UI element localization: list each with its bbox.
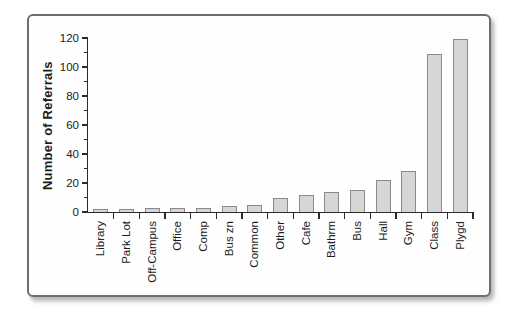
x-axis-tick <box>370 212 372 219</box>
y-axis-minor-tick <box>84 81 88 83</box>
x-axis-tick <box>293 212 295 219</box>
y-axis-major-tick <box>82 153 88 155</box>
category-slot: Plygd <box>447 38 473 212</box>
x-axis-category-label: Gym <box>402 221 415 245</box>
y-axis-minor-tick <box>84 197 88 199</box>
x-axis-tick <box>318 212 320 219</box>
category-slot: Library <box>88 38 114 212</box>
y-axis-tick-label: 80 <box>66 90 79 103</box>
bar-off-campus <box>145 208 160 212</box>
x-axis-tick <box>241 212 243 219</box>
y-axis-tick-label: 100 <box>60 61 79 74</box>
bar-library <box>93 209 108 212</box>
x-axis-tick <box>139 212 141 219</box>
x-axis-category-label: Bathrm <box>325 221 338 258</box>
x-axis-category-label: Park Lot <box>120 221 133 264</box>
category-slot: Off-Campus <box>139 38 165 212</box>
y-axis-tick-label: 20 <box>66 177 79 190</box>
x-axis-tick <box>421 212 423 219</box>
bar-hall <box>376 180 391 212</box>
bar-common <box>247 205 262 212</box>
category-slot: Gym <box>396 38 422 212</box>
category-slot: Common <box>242 38 268 212</box>
x-axis-category-label: Office <box>171 221 184 251</box>
x-axis-category-label: Bus <box>351 221 364 241</box>
category-slot: Park Lot <box>114 38 140 212</box>
plot-area: LibraryPark LotOff-CampusOfficeCompBus z… <box>87 38 473 213</box>
bar-park-lot <box>119 209 134 212</box>
y-axis-major-tick <box>82 37 88 39</box>
y-axis-tick-label: 120 <box>60 32 79 45</box>
bars-container: LibraryPark LotOff-CampusOfficeCompBus z… <box>88 38 473 212</box>
x-axis-category-label: Hall <box>377 221 390 241</box>
figure-frame: Number of Referrals LibraryPark LotOff-C… <box>27 14 491 297</box>
y-axis-minor-tick <box>84 52 88 54</box>
x-axis-category-label: Plygd <box>454 221 467 250</box>
bar-plygd <box>453 39 468 212</box>
x-axis-tick <box>113 212 115 219</box>
bar-comp <box>196 208 211 212</box>
x-axis-category-label: Cafe <box>300 221 313 245</box>
category-slot: Office <box>165 38 191 212</box>
page: Number of Referrals LibraryPark LotOff-C… <box>0 0 511 315</box>
x-axis-category-label: Bus zn <box>223 221 236 256</box>
y-axis-minor-tick <box>84 110 88 112</box>
y-axis-minor-tick <box>84 168 88 170</box>
bar-bathrm <box>324 192 339 212</box>
y-axis-major-tick <box>82 124 88 126</box>
category-slot: Hall <box>370 38 396 212</box>
x-axis-tick <box>190 212 192 219</box>
x-axis-tick <box>164 212 166 219</box>
y-axis-tick-label: 40 <box>66 148 79 161</box>
x-axis-category-label: Comp <box>197 221 210 252</box>
x-axis-tick <box>344 212 346 219</box>
bar-bus-zn <box>222 206 237 212</box>
y-axis-tick-label: 0 <box>73 206 79 219</box>
x-axis-category-label: Other <box>274 221 287 250</box>
category-slot: Bathrm <box>319 38 345 212</box>
y-axis-major-tick <box>82 95 88 97</box>
bar-cafe <box>299 195 314 212</box>
category-slot: Bus zn <box>216 38 242 212</box>
x-axis-tick <box>267 212 269 219</box>
x-axis-tick <box>216 212 218 219</box>
category-slot: Other <box>268 38 294 212</box>
category-slot: Class <box>422 38 448 212</box>
bar-class <box>427 54 442 212</box>
y-axis-minor-tick <box>84 139 88 141</box>
x-axis-tick <box>472 212 474 219</box>
category-slot: Comp <box>191 38 217 212</box>
bar-gym <box>401 171 416 212</box>
bar-other <box>273 198 288 213</box>
y-axis-tick-label: 60 <box>66 119 79 132</box>
x-axis-category-label: Class <box>428 221 441 250</box>
y-axis-major-tick <box>82 182 88 184</box>
y-axis-title: Number of Referrals <box>40 38 58 214</box>
category-slot: Bus <box>345 38 371 212</box>
bar-office <box>170 208 185 212</box>
x-axis-tick <box>447 212 449 219</box>
y-axis-major-tick <box>82 211 88 213</box>
x-axis-tick <box>395 212 397 219</box>
y-axis-major-tick <box>82 66 88 68</box>
bar-bus <box>350 190 365 212</box>
x-axis-category-label: Common <box>248 221 261 268</box>
x-axis-category-label: Off-Campus <box>146 221 159 283</box>
category-slot: Cafe <box>293 38 319 212</box>
x-axis-category-label: Library <box>94 221 107 256</box>
